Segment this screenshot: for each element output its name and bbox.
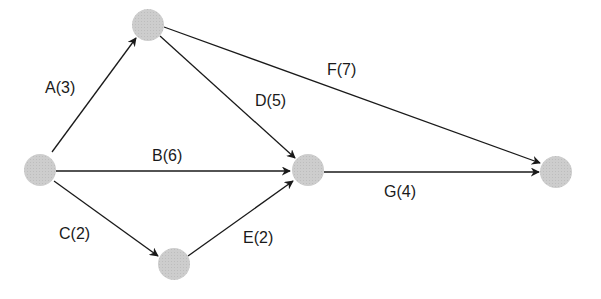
node-bottom — [158, 248, 190, 280]
edge-c — [54, 181, 158, 256]
edge-label-e: E(2) — [243, 230, 273, 246]
edge-label-d: D(5) — [255, 93, 286, 109]
edge-label-b: B(6) — [152, 148, 182, 164]
edge-e — [188, 181, 293, 256]
edge-f — [164, 27, 540, 163]
edge-label-a: A(3) — [45, 80, 75, 96]
edge-label-f: F(7) — [327, 62, 356, 78]
node-top — [132, 9, 164, 41]
node-end — [540, 156, 572, 188]
network-diagram — [0, 0, 601, 299]
node-middle — [292, 154, 324, 186]
edge-label-c: C(2) — [59, 226, 90, 242]
node-start — [24, 154, 56, 186]
edge-label-g: G(4) — [384, 184, 416, 200]
